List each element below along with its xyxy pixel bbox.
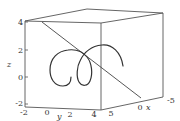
- x-tick-label: -5: [167, 96, 175, 105]
- 3d-plot: 4 2 0 -2 z -2 0 2 4 y 5 0 -5 x: [0, 0, 180, 121]
- x-tick-label: 0: [137, 103, 142, 112]
- x-axis-label: x: [146, 103, 151, 112]
- z-tick-label: -2: [15, 99, 23, 108]
- y-tick-label: 0: [44, 108, 49, 117]
- space-curve-series: [50, 45, 123, 86]
- y-axis-label: y: [56, 112, 62, 121]
- y-tick-label: 4: [91, 110, 96, 119]
- x-axis-tick-labels: 5 0 -5: [108, 96, 174, 118]
- y-tick-label: -2: [20, 108, 28, 117]
- z-tick-label: 2: [18, 46, 23, 55]
- z-axis-ticks: [25, 22, 28, 104]
- straight-line-series: [42, 22, 141, 98]
- z-tick-label: 0: [18, 73, 23, 82]
- z-axis-tick-labels: 4 2 0 -2: [15, 18, 23, 108]
- plot-box: [25, 9, 163, 110]
- z-tick-label: 4: [18, 18, 23, 27]
- y-tick-label: 2: [67, 110, 72, 119]
- x-tick-label: 5: [108, 109, 113, 118]
- z-axis-label: z: [6, 60, 12, 69]
